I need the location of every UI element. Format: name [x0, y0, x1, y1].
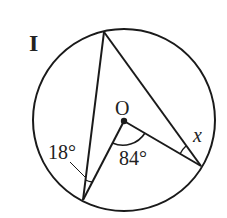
unknown-angle-label: x — [192, 124, 202, 146]
circle-geometry-diagram: I O 84° 18° x — [0, 0, 227, 218]
segment-o-to-bottom-left — [83, 121, 124, 200]
unknown-angle-arc — [180, 146, 186, 154]
center-label: O — [115, 97, 129, 119]
inscribed-angle-arc-left — [86, 180, 93, 182]
inscribed-angle-label-left: 18° — [48, 141, 76, 163]
problem-label: I — [29, 30, 38, 56]
leader-line-18 — [70, 162, 86, 178]
central-angle-label: 84° — [119, 147, 147, 169]
chord-top-to-bottom-left — [83, 32, 104, 200]
